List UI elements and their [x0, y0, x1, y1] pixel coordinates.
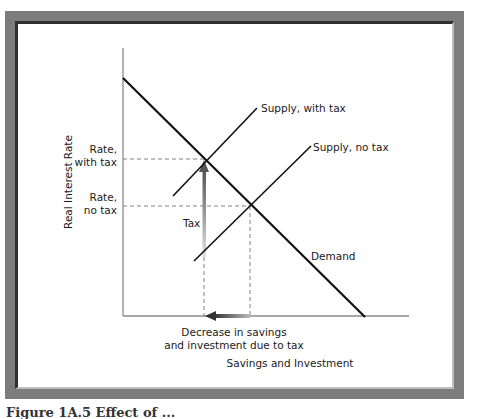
supply-no-tax-label: Supply, no tax — [313, 141, 389, 153]
tax-arrow-shaft — [203, 170, 207, 257]
y-axis-label: Real Interest Rate — [62, 135, 74, 229]
tick-rate-no-tax-line1: Rate, — [90, 191, 117, 203]
tick-rate-with-tax-line2: with tax — [75, 156, 117, 168]
figure-caption: Figure 1A.5 Effect of ... — [6, 405, 306, 419]
supply-with-tax-label: Supply, with tax — [261, 102, 346, 114]
decrease-arrow-shaft — [214, 314, 250, 318]
supply-with-tax-curve — [173, 108, 257, 196]
decrease-label-line1: Decrease in savings — [181, 326, 286, 338]
decrease-label-line2: and investment due to tax — [164, 339, 303, 351]
x-axis-label: Savings and Investment — [227, 357, 354, 369]
demand-label: Demand — [311, 250, 356, 262]
supply-no-tax-curve — [194, 146, 311, 261]
tax-label: Tax — [182, 217, 200, 229]
tick-rate-with-tax-line1: Rate, — [90, 143, 117, 155]
tick-rate-no-tax-line2: no tax — [84, 204, 117, 216]
decrease-arrow-head — [205, 311, 216, 321]
